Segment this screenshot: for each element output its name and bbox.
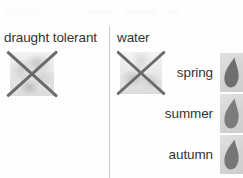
water-droplet-icon: [220, 53, 243, 92]
column-label-draught-tolerant: draught tolerant: [4, 30, 97, 45]
scan-artifact: [126, 9, 156, 15]
legend-panel: draught tolerant water spring summer: [0, 0, 243, 178]
water-droplet-icon: [220, 94, 243, 133]
scan-artifact: [6, 9, 40, 16]
season-row: spring: [150, 52, 243, 92]
column-divider: [109, 26, 110, 178]
season-label-summer: summer: [165, 106, 213, 121]
scan-artifact: [88, 10, 110, 15]
scan-artifact: [166, 10, 180, 15]
season-label-spring: spring: [177, 65, 213, 80]
season-row: autumn: [150, 134, 243, 174]
plant-photo-icon: [10, 52, 54, 96]
water-droplet-icon: [220, 135, 243, 174]
cross-out-icon: [6, 48, 58, 100]
season-row: summer: [150, 93, 243, 133]
season-label-autumn: autumn: [169, 147, 213, 162]
column-label-water: water: [117, 30, 150, 45]
